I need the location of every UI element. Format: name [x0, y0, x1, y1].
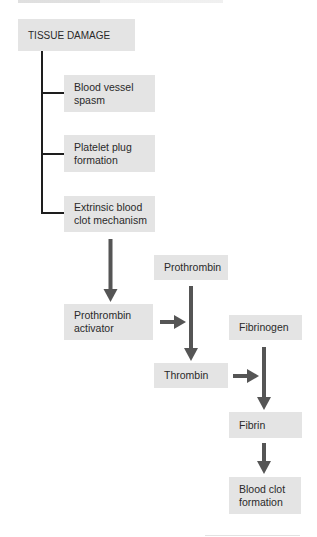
arrow-down-icon — [257, 347, 271, 410]
arrow-right-icon — [233, 369, 259, 383]
arrow-down-icon — [184, 286, 198, 361]
arrow-right-icon — [160, 315, 186, 329]
arrow-down-icon — [257, 443, 271, 474]
arrow-down-icon — [104, 239, 118, 302]
bottom-rule-divider — [205, 535, 300, 536]
arrows-layer — [0, 0, 317, 537]
